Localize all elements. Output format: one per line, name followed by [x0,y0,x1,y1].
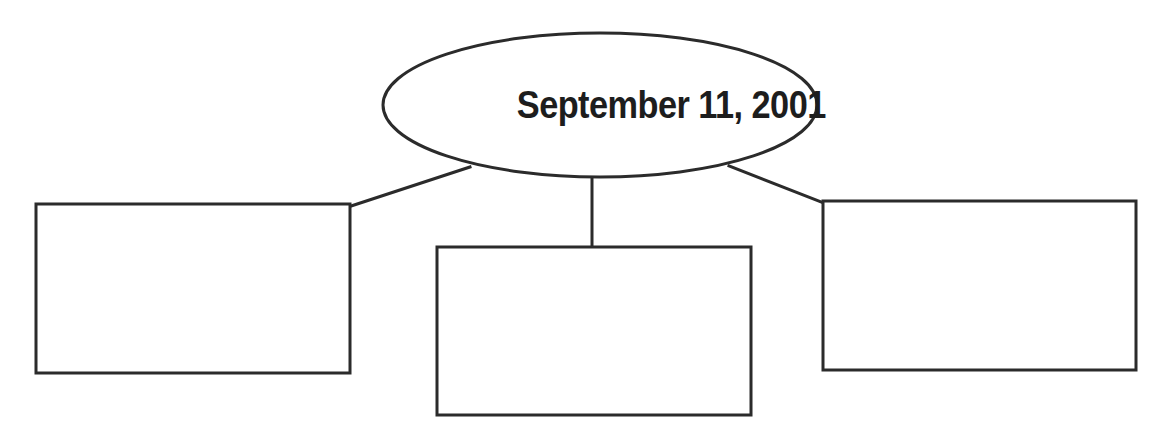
connector-line-right [729,166,824,203]
answer-box-center[interactable] [437,247,751,415]
concept-web-diagram: September 11, 2001 [0,0,1170,436]
answer-box-left[interactable] [36,204,350,373]
connector-line-left [351,167,470,206]
answer-box-right[interactable] [823,201,1136,370]
graphic-organizer-worksheet: September 11, 2001 [0,0,1170,436]
central-topic-label: September 11, 2001 [517,83,826,127]
